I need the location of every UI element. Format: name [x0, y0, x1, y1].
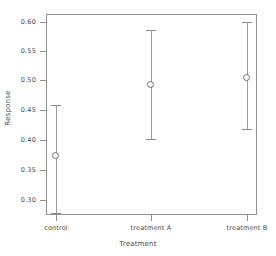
errorbar-lower-cap: [146, 139, 156, 140]
errorbar-lower-cap: [242, 129, 252, 130]
y-tick-label-055: 0.55: [0, 47, 36, 55]
y-axis-title: Response: [4, 78, 12, 138]
errorbar-treatment-b: [237, 0, 257, 256]
errorbar-lower-cap: [51, 213, 61, 214]
errorbar-whisker: [56, 105, 57, 213]
mean-marker: [147, 81, 154, 88]
errorbar-control: [46, 0, 66, 256]
y-tick-label-035: 0.35: [0, 166, 36, 174]
mean-marker: [52, 152, 59, 159]
mean-marker: [243, 74, 250, 81]
error-bar-chart: 0.60 0.55 0.50 0.45 0.40 0.35 0.30 contr…: [0, 0, 276, 256]
y-tick-label-060: 0.60: [0, 18, 36, 26]
x-axis-title: Treatment: [0, 240, 276, 248]
errorbar-treatment-a: [141, 0, 161, 256]
y-tick-label-030: 0.30: [0, 196, 36, 204]
